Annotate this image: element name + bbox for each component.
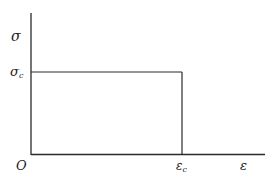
origin-label: O bbox=[16, 158, 27, 173]
stress-strain-diagram: σ σc O εc ε bbox=[0, 0, 278, 178]
sigma-c-label: σc bbox=[10, 64, 24, 80]
x-axis-label: ε bbox=[240, 158, 247, 173]
y-axis-label: σ bbox=[11, 28, 21, 44]
epsilon-c-label: εc bbox=[176, 159, 187, 174]
